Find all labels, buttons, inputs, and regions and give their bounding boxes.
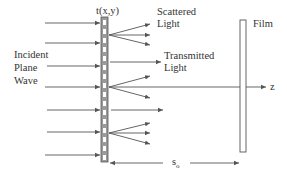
z-axis-label: z [270, 81, 275, 93]
transmitted-light-arrows [110, 62, 163, 110]
transparency-grating [101, 17, 108, 162]
incident-label-line3: Wave [14, 75, 38, 87]
film-plate [240, 20, 246, 152]
incident-label-line2: Plane [14, 62, 37, 74]
transmittance-label: t(x,y) [96, 5, 119, 17]
incident-wave-arrows [45, 23, 100, 155]
scattered-label-line1: Scattered [157, 6, 196, 18]
transmitted-label-line1: Transmitted [164, 50, 214, 62]
distance-label: so [172, 156, 180, 172]
film-label: Film [253, 18, 273, 30]
optics-diagram [0, 0, 287, 173]
scattered-label-line2: Light [157, 18, 180, 30]
scattered-light-arrows [109, 24, 150, 144]
transmitted-label-line2: Light [164, 62, 187, 74]
incident-label-line1: Incident [14, 49, 48, 61]
distance-subscript: o [176, 162, 180, 170]
